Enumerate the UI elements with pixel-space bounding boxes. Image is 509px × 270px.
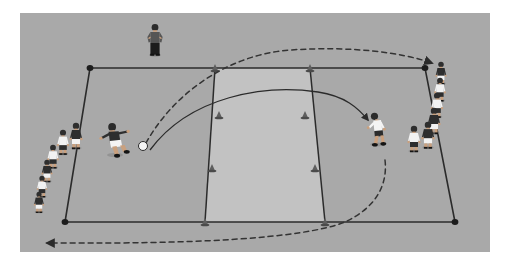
queue-player xyxy=(47,145,59,169)
top-right-corner-cone xyxy=(422,65,429,71)
soccer-ball xyxy=(139,142,148,151)
queue-player xyxy=(57,130,70,155)
top-left-corner-cone xyxy=(87,65,94,71)
kicker xyxy=(99,123,129,158)
bottom-right-corner-cone xyxy=(452,219,459,225)
drill-diagram xyxy=(0,0,509,270)
diagram-stage xyxy=(0,0,509,270)
bottom-left-corner-cone xyxy=(62,219,69,225)
queue-player xyxy=(407,126,420,153)
receiver xyxy=(367,113,387,147)
coach xyxy=(147,24,162,57)
